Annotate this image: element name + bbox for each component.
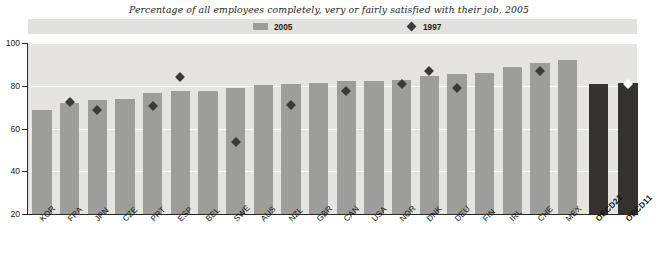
y-axis-tick-label: 20 [0, 209, 20, 219]
chart-legend: 2005 1997 [28, 19, 637, 34]
legend-diamond-icon [407, 22, 417, 32]
chart-title: Percentage of all employees completely, … [0, 4, 658, 15]
legend-swatch-icon [253, 23, 268, 30]
marker-can [341, 86, 351, 96]
legend-item-2005: 2005 [253, 19, 292, 34]
y-axis-tick-label: 60 [0, 124, 20, 134]
y-axis-tick-label: 100 [0, 38, 20, 48]
marker-series-1997 [28, 43, 637, 214]
y-axis-tick-label: 40 [0, 166, 20, 176]
marker-esp [175, 72, 185, 82]
y-axis-tick [22, 86, 27, 87]
marker-nor [397, 79, 407, 89]
y-axis-tick [22, 171, 27, 172]
y-axis-line [27, 43, 28, 214]
y-axis-tick [22, 43, 27, 44]
marker-swe [231, 137, 241, 147]
chart-container: Percentage of all employees completely, … [0, 0, 658, 258]
marker-fra [65, 97, 75, 107]
y-axis-tick-label: 80 [0, 81, 20, 91]
marker-prt [148, 101, 158, 111]
marker-deu [452, 83, 462, 93]
marker-nzl [286, 100, 296, 110]
marker-jpn [92, 105, 102, 115]
marker-oecd11 [623, 79, 633, 89]
y-axis-tick [22, 214, 27, 215]
marker-che [535, 66, 545, 76]
marker-dnk [424, 66, 434, 76]
legend-label-1997: 1997 [423, 22, 441, 32]
plot-area [28, 43, 637, 214]
legend-label-2005: 2005 [274, 22, 292, 32]
legend-item-1997: 1997 [406, 19, 441, 34]
y-axis-tick [22, 129, 27, 130]
